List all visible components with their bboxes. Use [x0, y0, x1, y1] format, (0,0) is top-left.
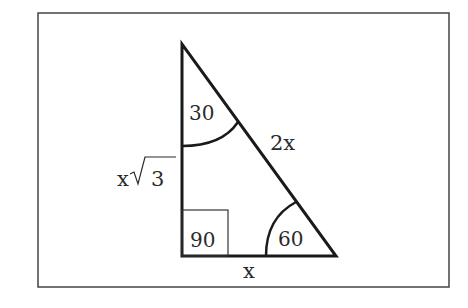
vertical-leg-radicand: 3: [151, 167, 164, 191]
angle-arc-30: [182, 122, 238, 146]
angle-label-30: 30: [189, 101, 214, 125]
diagram-frame: [38, 13, 449, 287]
hypotenuse-label: 2x: [270, 131, 295, 155]
triangle-diagram: 30 90 60 2x x 3 x: [0, 0, 468, 308]
horizontal-leg-label: x: [243, 259, 255, 283]
right-triangle: [182, 44, 336, 256]
angle-label-90: 90: [190, 228, 215, 252]
vertical-leg-coefficient: x: [117, 167, 129, 191]
angle-label-60: 60: [278, 227, 303, 251]
